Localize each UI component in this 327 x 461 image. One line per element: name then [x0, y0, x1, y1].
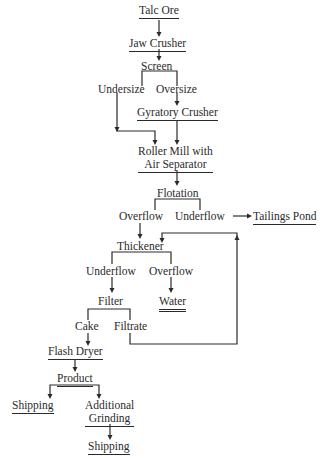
node-filtrate: Filtrate [114, 320, 147, 333]
node-tailings-pond: Tailings Pond [253, 210, 316, 225]
edge-flotation-split [155, 199, 200, 210]
node-roller-mill-line-2: Air Separator [138, 158, 213, 171]
node-gyratory-crusher: Gyratory Crusher [137, 106, 218, 121]
node-filter: Filter [98, 295, 123, 308]
node-flotation-overflow: Overflow [119, 210, 163, 223]
node-product: Product [57, 372, 93, 387]
arrowhead [247, 214, 252, 219]
node-additional-grinding-line-1: Additional [85, 399, 134, 412]
node-flash-dryer: Flash Dryer [48, 345, 103, 360]
node-additional-grinding-line-2: Grinding [85, 412, 134, 425]
node-thickener: Thickener [117, 240, 164, 253]
node-shipping-1: Shipping [12, 399, 54, 414]
arrowhead [110, 288, 115, 293]
node-additional-grinding: Additional Grinding [85, 399, 134, 427]
node-flotation-underflow: Underflow [175, 210, 225, 223]
node-roller-mill-air-separator: Roller Mill with Air Separator [138, 145, 213, 173]
arrowhead [138, 234, 143, 239]
arrowhead [235, 235, 240, 240]
node-shipping-2: Shipping [88, 440, 130, 455]
node-undersize: Undersize [98, 83, 145, 96]
node-water: Water [159, 295, 186, 312]
node-thickener-overflow: Overflow [149, 265, 193, 278]
node-flotation: Flotation [157, 187, 199, 200]
arrowhead [175, 181, 180, 186]
node-screen: Screen [141, 60, 172, 73]
node-thickener-underflow: Underflow [86, 265, 136, 278]
node-talc-ore: Talc Ore [139, 4, 179, 19]
arrowhead [169, 288, 174, 293]
node-roller-mill-line-1: Roller Mill with [138, 145, 213, 158]
node-cake: Cake [75, 320, 99, 333]
node-jaw-crusher: Jaw Crusher [129, 37, 186, 52]
talc-processing-flowchart: Talc Ore Jaw Crusher Screen Undersize Ov… [0, 0, 327, 461]
edge-thickener-split [112, 252, 171, 264]
node-oversize: Oversize [156, 83, 197, 96]
edge-filter-split [88, 309, 130, 320]
